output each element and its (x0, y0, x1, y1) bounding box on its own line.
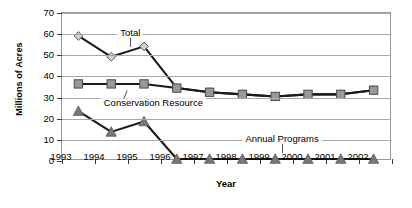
gridline (62, 140, 390, 141)
y-axis-tick-label: 50 (43, 51, 54, 61)
annotation-leader-line (282, 144, 283, 153)
data-point-marker (173, 84, 181, 92)
x-axis-tick-label: 2001 (314, 152, 335, 162)
x-axis-tick (392, 159, 393, 164)
x-axis-tick-label: 1999 (248, 152, 269, 162)
x-axis-tick-label: 1997 (182, 152, 203, 162)
gridline (62, 76, 390, 77)
y-axis-tick-label: 70 (43, 8, 54, 18)
y-axis-tick-label: 40 (43, 72, 54, 82)
x-axis-tick-label: 1995 (116, 152, 137, 162)
series-line (78, 84, 373, 97)
data-point-marker (205, 88, 213, 96)
series-annotation-label: Conservation Resource (101, 98, 206, 108)
plot-area: 010203040506070 (61, 12, 391, 160)
y-axis-tick (57, 98, 62, 99)
gridline (62, 34, 390, 35)
y-axis-tick (57, 76, 62, 77)
y-axis-tick-label: 30 (43, 93, 54, 103)
x-axis-tick-label: 1994 (83, 152, 104, 162)
y-axis-tick-label: 20 (43, 114, 54, 124)
chart-figure: Millions of Acres 010203040506070 Year 1… (0, 0, 412, 208)
annotation-leader-line (130, 38, 131, 47)
data-point-marker (271, 92, 279, 100)
x-axis-tick-label: 1993 (50, 152, 71, 162)
gridline (62, 55, 390, 56)
data-point-marker (74, 80, 82, 88)
y-axis-tick-label: 10 (43, 135, 54, 145)
y-axis-tick (57, 13, 62, 14)
x-axis-tick-label: 1996 (149, 152, 170, 162)
x-axis-tick-label: 2000 (281, 152, 302, 162)
series-annotation-label: Annual Programs (242, 134, 321, 144)
y-axis-title: Millions of Acres (14, 14, 24, 144)
y-axis-tick (57, 55, 62, 56)
gridline (62, 119, 390, 120)
series-annotation-label: Total (117, 28, 143, 38)
data-point-marker (73, 106, 83, 115)
y-axis-tick (57, 34, 62, 35)
x-axis-tick-label: 1998 (215, 152, 236, 162)
y-axis-tick-label: 60 (43, 29, 54, 39)
x-axis-title: Year (61, 178, 391, 189)
data-point-marker (140, 80, 148, 88)
y-axis-tick (57, 119, 62, 120)
y-axis-tick (57, 140, 62, 141)
data-point-marker (107, 80, 115, 88)
gridline (62, 13, 390, 14)
series-line (78, 36, 373, 96)
data-point-marker (369, 86, 377, 94)
x-axis-tick-label: 2002 (347, 152, 368, 162)
